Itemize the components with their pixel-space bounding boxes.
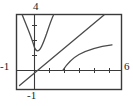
x-max-label: 6 bbox=[124, 61, 130, 72]
plot-canvas bbox=[0, 0, 133, 106]
graph-figure: 4 -1 -1 6 bbox=[0, 0, 133, 106]
curve-parabola bbox=[22, 15, 53, 51]
x-min-label: -1 bbox=[0, 61, 9, 72]
y-min-label: -1 bbox=[27, 90, 36, 101]
curve-sqrt bbox=[63, 45, 112, 70]
y-max-label: 4 bbox=[33, 1, 39, 12]
